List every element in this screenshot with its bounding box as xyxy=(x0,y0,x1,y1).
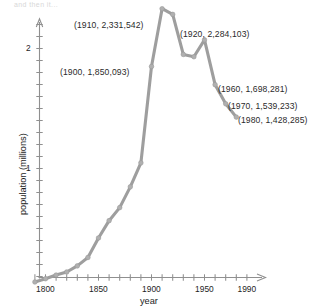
population-line-chart: and then it... 1 2 1800 1850 1900 1950 1… xyxy=(0,0,329,307)
data-point-1920 xyxy=(170,12,175,17)
annotation-1900: (1900, 1,850,093) xyxy=(60,67,130,77)
data-point-1800 xyxy=(43,276,48,281)
data-series-layer xyxy=(33,6,239,284)
x-tick-label-1950: 1950 xyxy=(195,284,214,294)
y-axis-title: population (millions) xyxy=(18,133,28,215)
y-tick-label-2: 2 xyxy=(26,43,31,53)
chart-canvas xyxy=(0,0,329,307)
data-point-1830 xyxy=(75,264,80,269)
data-point-1840 xyxy=(86,255,91,260)
data-point-1910 xyxy=(160,6,165,11)
data-point-1860 xyxy=(107,218,112,223)
data-point-1880 xyxy=(128,185,133,190)
x-tick-label-1850: 1850 xyxy=(89,284,108,294)
annotation-1960: (1960, 1,698,281) xyxy=(218,84,288,94)
data-point-1850 xyxy=(96,236,101,241)
annotation-1910: (1910, 2,331,542) xyxy=(74,20,144,30)
data-line xyxy=(35,9,236,282)
x-tick-label-1900: 1900 xyxy=(142,284,161,294)
data-point-1820 xyxy=(64,270,69,275)
data-point-1870 xyxy=(117,205,122,210)
data-point-1940 xyxy=(192,54,197,59)
x-axis-title: year xyxy=(140,296,158,306)
data-point-1810 xyxy=(54,273,59,278)
annotation-1980: (1980, 1,428,285) xyxy=(238,115,308,125)
data-point-1890 xyxy=(139,161,144,166)
data-point-1900 xyxy=(149,64,154,69)
data-point-1960 xyxy=(213,82,218,87)
x-tick-label-1990: 1990 xyxy=(238,284,257,294)
annotation-1920: (1920, 2,284,103) xyxy=(180,29,250,39)
data-point-1930 xyxy=(181,52,186,57)
annotation-1970: (1970, 1,539,233) xyxy=(228,101,298,111)
x-tick-label-1800: 1800 xyxy=(36,284,55,294)
axis-layer xyxy=(35,19,266,281)
